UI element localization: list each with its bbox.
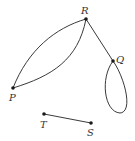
node-p <box>11 86 15 90</box>
label-p: P <box>8 92 16 103</box>
edge-q-loop <box>105 61 127 113</box>
graph-diagram: R Q P T S <box>0 0 135 141</box>
node-r <box>84 17 88 21</box>
edge-p-r-upper <box>13 19 86 88</box>
node-q <box>111 59 115 63</box>
edge-p-r-lower <box>13 19 86 88</box>
label-s: S <box>87 127 94 138</box>
edge-r-q <box>86 19 113 61</box>
label-t: T <box>40 119 48 130</box>
label-q: Q <box>116 54 124 65</box>
edge-t-s <box>44 114 91 123</box>
label-r: R <box>80 5 89 16</box>
node-t <box>42 112 46 116</box>
node-s <box>89 121 93 125</box>
